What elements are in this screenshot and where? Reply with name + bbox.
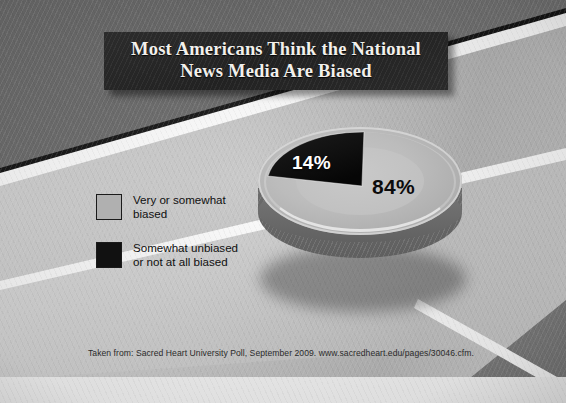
poster-canvas: Most Americans Think the National News M… (0, 0, 566, 403)
source-citation: Taken from: Sacred Heart University Poll… (88, 348, 474, 358)
legend-swatch-unbiased (96, 242, 122, 268)
pie-chart (252, 118, 472, 318)
data-label-biased: 84% (372, 175, 415, 199)
title-banner: Most Americans Think the National News M… (104, 32, 448, 90)
legend-label-unbiased: Somewhat unbiased or not at all biased (133, 241, 238, 269)
page-title: Most Americans Think the National News M… (121, 39, 431, 83)
data-label-unbiased: 14% (292, 152, 331, 174)
legend-label-biased: Very or somewhat biased (133, 193, 226, 221)
legend-swatch-biased (96, 194, 122, 220)
pie-slice-unbiased (252, 120, 468, 240)
